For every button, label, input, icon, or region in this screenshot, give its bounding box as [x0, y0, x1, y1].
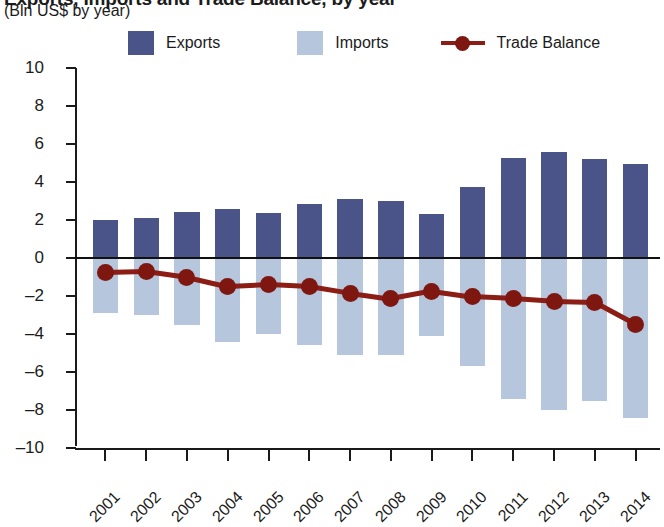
legend-item-imports: Imports — [297, 31, 388, 55]
trade-balance-marker — [546, 293, 563, 310]
y-tick — [66, 67, 76, 69]
y-tick-label: –2 — [0, 286, 44, 306]
x-tick-label: 2002 — [110, 488, 165, 527]
imports-bar — [174, 258, 199, 325]
trade-balance-marker — [97, 264, 114, 281]
y-tick-label: 6 — [0, 134, 44, 154]
exports-bar — [93, 220, 118, 258]
y-tick-label: –8 — [0, 400, 44, 420]
x-tick — [390, 450, 392, 461]
exports-swatch-icon — [128, 31, 154, 55]
y-tick-label: 0 — [0, 248, 44, 268]
y-tick-label: 2 — [0, 210, 44, 230]
y-tick-label: 8 — [0, 96, 44, 116]
imports-bar — [501, 258, 526, 399]
y-tick — [66, 219, 76, 221]
imports-bar — [541, 258, 566, 410]
exports-bar — [297, 204, 322, 258]
y-tick — [66, 295, 76, 297]
y-tick-label: –6 — [0, 362, 44, 382]
exports-bar — [378, 201, 403, 258]
x-tick — [431, 450, 433, 461]
imports-bar — [337, 258, 362, 355]
trade-balance-marker — [505, 290, 522, 307]
x-tick — [594, 450, 596, 461]
chart-legend: Exports Imports Trade Balance — [128, 30, 600, 56]
exports-bar — [541, 152, 566, 258]
y-tick — [66, 409, 76, 411]
x-tick — [635, 450, 637, 461]
x-tick-label: 2007 — [314, 488, 369, 527]
exports-bar — [215, 209, 240, 258]
imports-bar — [582, 258, 607, 401]
exports-bar — [256, 213, 281, 258]
x-tick — [145, 450, 147, 461]
exports-bar — [501, 158, 526, 258]
y-tick-label: –10 — [0, 438, 44, 458]
trade-balance-marker — [260, 276, 277, 293]
x-axis-line — [75, 448, 660, 450]
trade-balance-line-icon — [441, 31, 485, 55]
trade-balance-marker — [342, 285, 359, 302]
x-tick — [268, 450, 270, 461]
exports-bar — [337, 199, 362, 258]
x-tick — [308, 450, 310, 461]
legend-item-exports: Exports — [128, 31, 220, 55]
imports-bar — [256, 258, 281, 334]
exports-bar — [419, 214, 444, 258]
trade-balance-marker — [423, 283, 440, 300]
imports-bar — [460, 258, 485, 366]
exports-bar — [582, 159, 607, 258]
trade-balance-marker — [627, 316, 644, 333]
y-tick — [66, 181, 76, 183]
y-tick — [66, 371, 76, 373]
y-tick — [66, 447, 76, 449]
y-tick-label: 10 — [0, 58, 44, 78]
legend-label-exports: Exports — [166, 34, 220, 52]
zero-baseline — [75, 257, 660, 259]
x-tick-label: 2012 — [518, 488, 573, 527]
y-tick — [66, 105, 76, 107]
x-tick — [512, 450, 514, 461]
x-tick-label: 2011 — [477, 488, 532, 527]
x-tick — [227, 450, 229, 461]
y-tick-label: 4 — [0, 172, 44, 192]
x-tick — [349, 450, 351, 461]
y-tick — [66, 143, 76, 145]
trade-balance-marker — [138, 263, 155, 280]
x-tick — [104, 450, 106, 461]
legend-item-trade-balance: Trade Balance — [441, 31, 600, 55]
x-tick — [471, 450, 473, 461]
x-tick-label: 2001 — [69, 488, 124, 527]
legend-label-trade-balance: Trade Balance — [497, 34, 600, 52]
imports-swatch-icon — [297, 31, 323, 55]
imports-bar — [215, 258, 240, 342]
trade-balance-marker — [178, 269, 195, 286]
x-tick — [186, 450, 188, 461]
chart-subtitle: (Bln US$ by year) — [4, 2, 130, 20]
exports-bar — [460, 187, 485, 258]
y-tick — [66, 333, 76, 335]
exports-bar — [174, 212, 199, 258]
x-tick — [553, 450, 555, 461]
exports-bar — [623, 164, 648, 258]
exports-bar — [134, 218, 159, 258]
legend-label-imports: Imports — [335, 34, 388, 52]
plot-area: 1086420–2–4–6–8–10 200120022003200420052… — [75, 60, 660, 450]
y-tick-label: –4 — [0, 324, 44, 344]
imports-bar — [297, 258, 322, 345]
trade-balance-marker — [301, 278, 318, 295]
imports-bar — [623, 258, 648, 418]
